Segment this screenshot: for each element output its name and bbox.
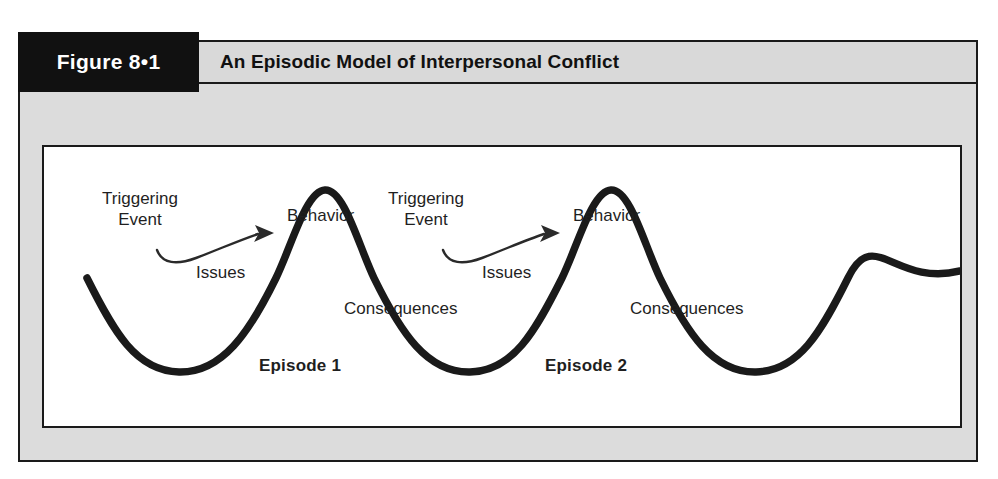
figure-page: Triggering Event Behavior Issues Consequ… — [0, 0, 998, 479]
figure-number-tab: Figure 8•1 — [18, 32, 199, 92]
label-episode-1: Episode 1 — [259, 356, 341, 376]
label-issues-1: Issues — [196, 263, 245, 283]
label-triggering-event-2: Triggering Event — [378, 188, 474, 230]
label-episode-2: Episode 2 — [545, 356, 627, 376]
figure-title: An Episodic Model of Interpersonal Confl… — [220, 42, 619, 82]
diagram-area: Triggering Event Behavior Issues Consequ… — [42, 145, 962, 428]
triggering-event-arrow-2 — [443, 225, 560, 262]
figure-panel: Triggering Event Behavior Issues Consequ… — [18, 82, 978, 462]
label-behavior-2: Behavior — [573, 206, 640, 226]
triggering-event-arrow-1 — [157, 225, 274, 262]
figure-number-label: Figure 8•1 — [18, 32, 199, 92]
label-consequences-1: Consequences — [344, 299, 457, 319]
label-triggering-event-1: Triggering Event — [92, 188, 188, 230]
label-consequences-2: Consequences — [630, 299, 743, 319]
label-issues-2: Issues — [482, 263, 531, 283]
label-behavior-1: Behavior — [287, 206, 354, 226]
